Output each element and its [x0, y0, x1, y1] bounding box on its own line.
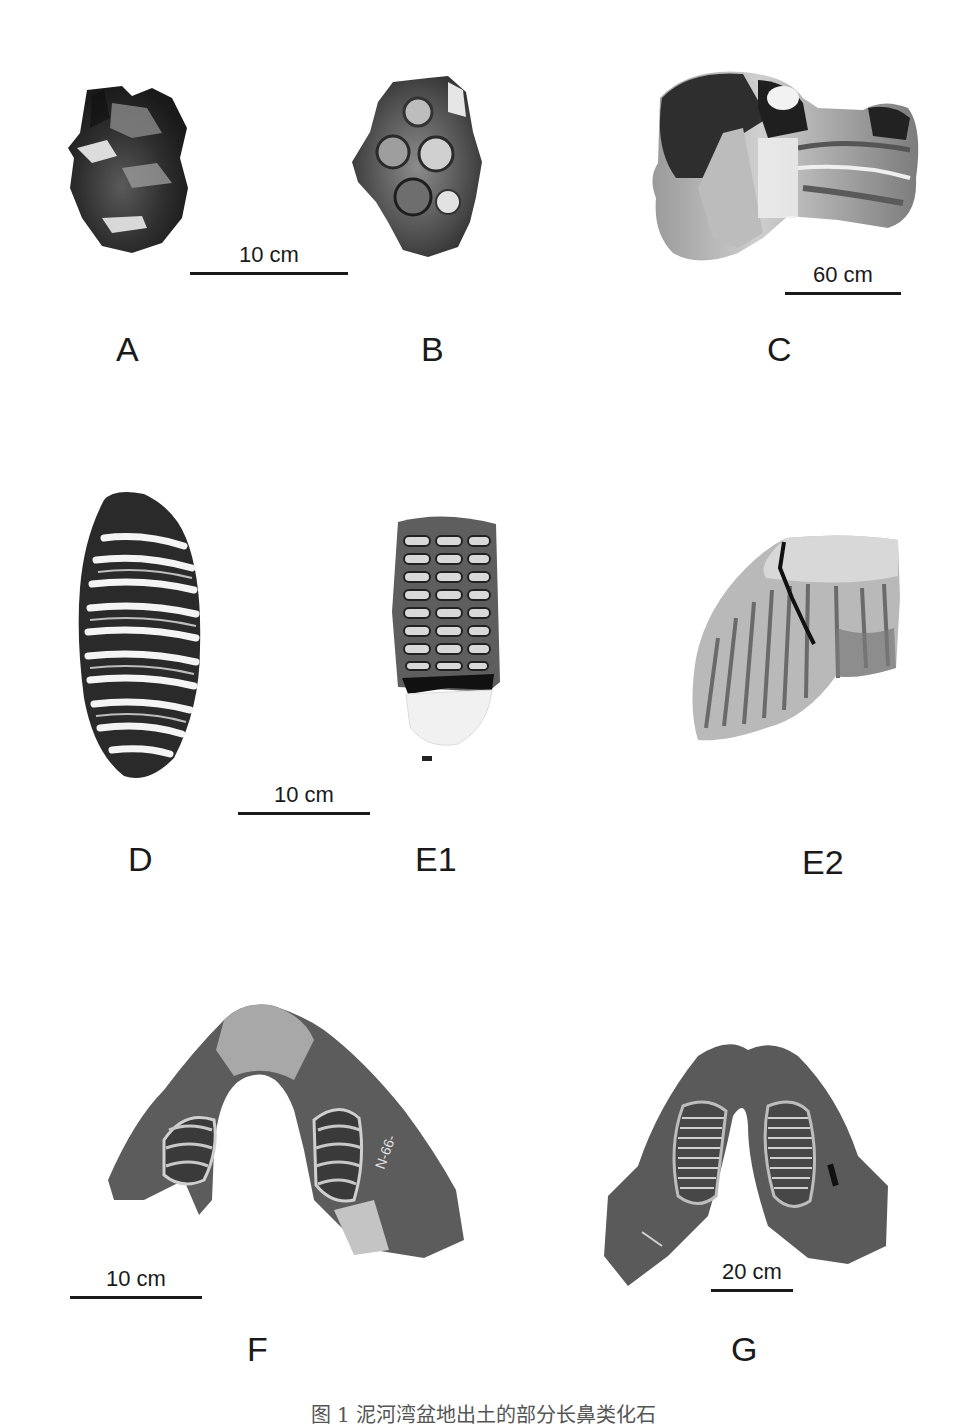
scale-bar-de: 10 cm — [238, 784, 370, 815]
scale-bar-f-line — [70, 1296, 202, 1299]
panel-label-f: F — [247, 1332, 268, 1366]
specimen-c-image — [648, 68, 923, 268]
scale-bar-de-text: 10 cm — [238, 784, 370, 806]
panel-label-b: B — [421, 332, 444, 366]
panel-label-a: A — [116, 332, 139, 366]
specimen-e1-image — [388, 512, 504, 768]
scale-bar-ab-line — [190, 272, 348, 275]
scale-bar-f-text: 10 cm — [70, 1268, 202, 1290]
scale-bar-c-text: 60 cm — [785, 264, 901, 286]
specimen-e2-image — [686, 528, 904, 750]
scale-bar-f: 10 cm — [70, 1268, 202, 1299]
specimen-d-image — [74, 488, 206, 784]
specimen-f-image: N-66- — [104, 1000, 466, 1262]
scale-bar-g-line — [711, 1289, 793, 1292]
scale-bar-de-line — [238, 812, 370, 815]
scale-bar-ab-text: 10 cm — [190, 244, 348, 266]
scale-bar-g: 20 cm — [711, 1261, 793, 1292]
scale-bar-c: 60 cm — [785, 264, 901, 295]
panel-label-e2: E2 — [802, 845, 844, 879]
panel-label-e1: E1 — [415, 842, 457, 876]
specimen-g-image — [598, 1036, 890, 1294]
panel-label-c: C — [767, 332, 792, 366]
specimen-a-image — [62, 78, 197, 258]
panel-label-d: D — [128, 842, 153, 876]
panel-label-g: G — [731, 1332, 757, 1366]
scale-bar-ab: 10 cm — [190, 244, 348, 275]
scale-bar-g-text: 20 cm — [711, 1261, 793, 1283]
figure-caption: 图 1 泥河湾盆地出土的部分长鼻类化石 — [0, 1405, 967, 1425]
specimen-b-image — [348, 72, 488, 262]
scale-bar-c-line — [785, 292, 901, 295]
